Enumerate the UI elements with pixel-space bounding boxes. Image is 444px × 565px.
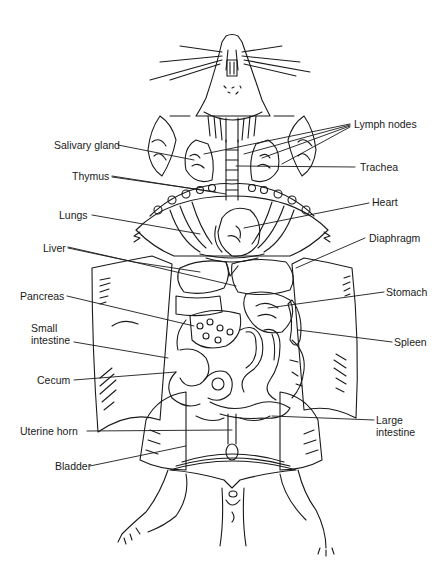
heart-shape (218, 208, 260, 256)
label-liver: Liver (43, 242, 66, 254)
leader-lines (67, 124, 392, 466)
label-stomach: Stomach (386, 286, 427, 298)
liver-shape (178, 261, 229, 293)
label-lungs: Lungs (59, 209, 88, 221)
lymph-node-chain (150, 184, 314, 217)
label-thymus: Thymus (72, 170, 109, 182)
label-large-intestine-line1: Large (376, 414, 415, 426)
stomach-shape (244, 292, 293, 333)
label-heart: Heart (372, 196, 398, 208)
label-salivary-gland: Salivary gland (54, 139, 120, 151)
label-large-intestine: Large intestine (376, 414, 415, 438)
label-lymph-nodes: Lymph nodes (354, 118, 417, 130)
label-small-intestine-line1: Small (31, 322, 70, 334)
label-bladder: Bladder (55, 460, 91, 472)
mouse-dissection-illustration (0, 0, 444, 565)
mouse-anatomy-diagram: Salivary gland Thymus Lungs Liver Pancre… (0, 0, 444, 565)
head-drawing (150, 35, 310, 143)
label-large-intestine-line2: intestine (376, 426, 415, 438)
label-pancreas: Pancreas (20, 290, 64, 302)
label-small-intestine-line2: intestine (31, 334, 70, 346)
cecum-shape (169, 372, 200, 406)
label-cecum: Cecum (37, 374, 70, 386)
label-spleen: Spleen (394, 336, 427, 348)
hindlimbs-drawing (118, 470, 334, 556)
intestines-drawing (169, 310, 304, 460)
label-small-intestine: Small intestine (31, 322, 70, 346)
label-uterine-horn: Uterine horn (20, 425, 78, 437)
label-diaphragm: Diaphragm (369, 232, 420, 244)
label-trachea: Trachea (360, 161, 398, 173)
thorax-drawing (134, 140, 330, 262)
forelimbs-drawing (148, 116, 316, 176)
